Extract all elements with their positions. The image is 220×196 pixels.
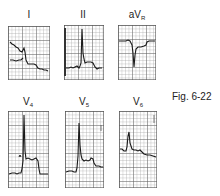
ecg-panel-V5 <box>65 111 104 188</box>
ecg-panel-V6 <box>119 111 157 188</box>
ecg-panel-I <box>8 26 50 80</box>
lead-name: V <box>23 96 30 107</box>
lead-subscript: 4 <box>30 102 33 108</box>
ecg-panel-II <box>64 25 104 80</box>
lead-label-V5: V5 <box>69 97 99 110</box>
figure-caption: Fig. 6-22 <box>172 91 211 102</box>
lead-name: V <box>79 96 86 107</box>
lead-subscript: R <box>141 15 145 21</box>
lead-name: I <box>28 9 31 20</box>
ecg-panel-V4 <box>8 111 49 188</box>
lead-label-I: I <box>14 10 44 20</box>
lead-label-II: II <box>68 10 98 20</box>
lead-label-aVR: aVR <box>122 10 152 23</box>
lead-label-V4: V4 <box>13 97 43 110</box>
lead-name: V <box>133 96 140 107</box>
lead-subscript: 6 <box>140 102 143 108</box>
lead-name: II <box>80 9 86 20</box>
lead-label-V6: V6 <box>123 97 153 110</box>
lead-subscript: 5 <box>86 102 89 108</box>
lead-name: aV <box>129 9 141 20</box>
ecg-panel-aVR <box>118 25 156 80</box>
